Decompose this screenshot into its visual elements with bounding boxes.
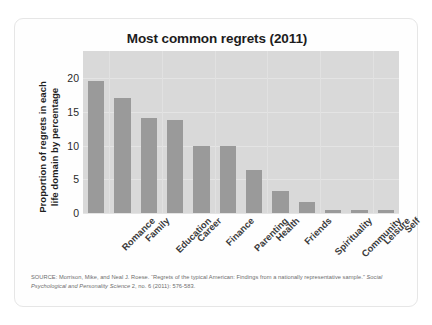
y-tick-label: 10: [67, 140, 79, 152]
bar-spirituality[interactable]: [299, 202, 315, 213]
x-axis-labels: RomanceFamilyEducationCareerFinanceParen…: [83, 213, 399, 275]
bar-romance[interactable]: [88, 81, 104, 213]
source-text-part1: SOURCE: Morrison, Mike, and Neal J. Roes…: [31, 274, 366, 280]
source-text-part2: 2, no. 6 (2011): 576-583.: [130, 283, 195, 289]
bar-chart: 20151050 Proportion of regrets in each l…: [15, 19, 419, 308]
y-axis-title-line1: Proportion of regrets in each: [37, 81, 48, 213]
figure-card: Most common regrets (2011) 20151050 Prop…: [14, 18, 418, 307]
y-axis-title-line2: life domain by percentage: [49, 88, 60, 206]
bar-parenting[interactable]: [220, 146, 236, 213]
source-note: SOURCE: Morrison, Mike, and Neal J. Roes…: [31, 273, 407, 290]
y-tick-label: 20: [67, 72, 79, 84]
bar-finance[interactable]: [193, 146, 209, 213]
y-tick-label: 0: [73, 207, 79, 219]
bar-family[interactable]: [114, 98, 130, 213]
bar-friends[interactable]: [272, 191, 288, 213]
y-tick-label: 15: [67, 106, 79, 118]
x-label-friends: Friends: [301, 215, 333, 247]
bars-group: [83, 51, 399, 213]
bar-education[interactable]: [141, 118, 157, 213]
bar-health[interactable]: [246, 170, 262, 213]
y-axis-title: Proportion of regrets in each life domai…: [34, 66, 64, 228]
x-label-finance: Finance: [223, 215, 256, 248]
bar-career[interactable]: [167, 120, 183, 213]
y-tick-label: 5: [73, 173, 79, 185]
